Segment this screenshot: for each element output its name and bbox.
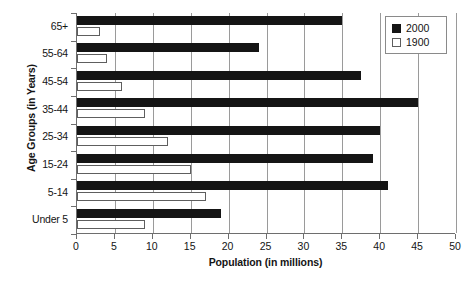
x-axis-tick-label: 10 [132, 240, 172, 252]
bar-chart: Age Groups (in Years) 65+55-6445-5435-44… [0, 0, 476, 289]
x-axis-tick-labels: 05101520253035404550 [0, 240, 476, 256]
x-axis-tick-label: 30 [283, 240, 323, 252]
bar-group [77, 96, 456, 124]
bar-2000-25-34 [77, 126, 380, 135]
bar-1900-25-34 [77, 137, 168, 146]
x-axis-tick [266, 234, 267, 239]
bar-1900-15-24 [77, 165, 191, 174]
x-axis-tick [455, 234, 456, 239]
x-axis-tick-label: 20 [208, 240, 248, 252]
y-axis-tick-label: 55-64 [0, 47, 68, 59]
bar-2000-15-24 [77, 154, 373, 163]
bar-group [77, 206, 456, 234]
x-axis-tick-label: 40 [359, 240, 399, 252]
y-axis-tick-label: 5-14 [0, 186, 68, 198]
bar-2000-55-64 [77, 43, 259, 52]
x-axis-tick-label: 0 [56, 240, 96, 252]
x-axis-tick [303, 234, 304, 239]
x-axis-tick [228, 234, 229, 239]
bar-2000-65- [77, 16, 342, 25]
legend-swatch-2000 [392, 24, 401, 33]
bar-1900-35-44 [77, 109, 145, 118]
y-axis-tick-label: 65+ [0, 20, 68, 32]
chart-legend: 20001900 [385, 16, 447, 54]
x-axis-tick-label: 25 [246, 240, 286, 252]
x-axis-tick [379, 234, 380, 239]
bar-2000-35-44 [77, 98, 418, 107]
clipped-caption [28, 279, 458, 289]
x-axis-tick [152, 234, 153, 239]
legend-item-2000[interactable]: 2000 [392, 21, 441, 35]
x-axis-tick [341, 234, 342, 239]
legend-swatch-1900 [392, 38, 401, 47]
bar-2000-45-54 [77, 71, 361, 80]
y-axis-tick-label: Under 5 [0, 213, 68, 225]
x-axis-tick [76, 234, 77, 239]
y-axis-tick-labels: 65+55-6445-5435-4425-3415-245-14Under 5 [0, 8, 72, 234]
x-axis-tick-label: 50 [435, 240, 475, 252]
x-axis-tick [190, 234, 191, 239]
bar-2000-under-5 [77, 209, 221, 218]
bar-group [77, 68, 456, 96]
x-axis-tick-label: 15 [170, 240, 210, 252]
bar-group [77, 179, 456, 207]
legend-label: 1900 [406, 37, 429, 48]
x-axis-tick [114, 234, 115, 239]
y-axis-tick-label: 35-44 [0, 103, 68, 115]
x-axis-tick-label: 35 [321, 240, 361, 252]
bar-1900-65- [77, 27, 100, 36]
y-axis-tick-label: 45-54 [0, 75, 68, 87]
legend-label: 2000 [406, 23, 429, 34]
y-axis-tick-label: 25-34 [0, 130, 68, 142]
x-axis-tick-label: 5 [94, 240, 134, 252]
gridline [456, 13, 457, 233]
bar-1900-45-54 [77, 82, 122, 91]
bar-1900-55-64 [77, 54, 107, 63]
x-axis-tick-label: 45 [397, 240, 437, 252]
legend-item-1900[interactable]: 1900 [392, 35, 441, 49]
y-axis-tick-label: 15-24 [0, 158, 68, 170]
bar-2000-5-14 [77, 181, 388, 190]
bar-group [77, 151, 456, 179]
bar-1900-5-14 [77, 192, 206, 201]
bar-1900-under-5 [77, 220, 145, 229]
x-axis-tick [417, 234, 418, 239]
bar-group [77, 124, 456, 152]
x-axis-title: Population (in millions) [76, 256, 455, 268]
